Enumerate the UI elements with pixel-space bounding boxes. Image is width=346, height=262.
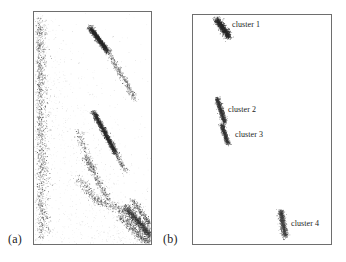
cluster-3-label: cluster 3 (235, 130, 263, 139)
panel-caption-a: (a) (8, 232, 22, 247)
cluster-2-label: cluster 2 (228, 105, 256, 114)
scatter-plot-a (34, 12, 151, 244)
cluster-4-label: cluster 4 (291, 219, 319, 228)
cluster-1-label: cluster 1 (232, 20, 260, 29)
scatter-panel-a (33, 11, 152, 245)
figure-container: (a) (b) cluster 1 cluster 2 cluster 3 cl… (0, 0, 346, 262)
panel-caption-b: (b) (163, 232, 178, 247)
